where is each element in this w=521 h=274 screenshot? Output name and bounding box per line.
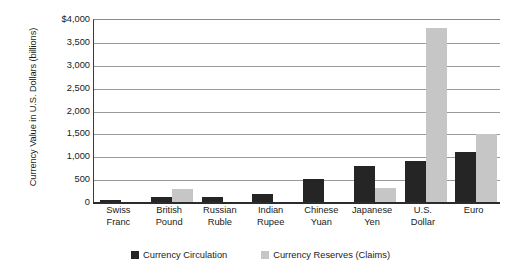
x-axis-line <box>93 202 500 204</box>
y-tick-label: 2,500 <box>67 83 90 93</box>
bar-chart: Currency Value in U.S. Dollars (billions… <box>0 0 521 274</box>
bar-group <box>398 19 449 202</box>
bar <box>375 188 396 202</box>
y-tick-label: 3,500 <box>67 37 90 47</box>
bar <box>151 197 172 202</box>
y-tick-label: 3,000 <box>67 60 90 70</box>
legend-item: Currency Circulation <box>131 250 227 260</box>
bar <box>455 152 476 202</box>
bar-group <box>347 19 398 202</box>
bar <box>303 179 324 202</box>
x-category-label: Euro <box>439 205 509 217</box>
bar-group <box>93 19 144 202</box>
bar <box>354 166 375 202</box>
bars-layer <box>93 19 499 202</box>
bar-group <box>144 19 195 202</box>
bar <box>252 194 273 202</box>
legend-label: Currency Circulation <box>143 250 227 260</box>
chart-legend: Currency CirculationCurrency Reserves (C… <box>0 248 521 262</box>
bar-group <box>448 19 499 202</box>
bar <box>172 189 193 202</box>
legend-item: Currency Reserves (Claims) <box>261 250 390 260</box>
bar <box>202 197 223 202</box>
y-tick-label: 1,000 <box>67 151 90 161</box>
x-category-label-line: Euro <box>439 205 509 217</box>
x-axis-category-labels: SwissFrancBritishPoundRussianRubleIndian… <box>93 205 499 241</box>
bar-group <box>296 19 347 202</box>
x-category-label-line: Dollar <box>388 217 458 229</box>
y-tick-label: $4,000 <box>62 14 90 24</box>
legend-swatch-icon <box>131 251 139 259</box>
legend-label: Currency Reserves (Claims) <box>273 250 390 260</box>
legend-swatch-icon <box>261 251 269 259</box>
bar <box>426 28 447 202</box>
bar <box>476 134 497 202</box>
bar-group <box>195 19 246 202</box>
y-tick-label: 500 <box>74 174 90 184</box>
y-axis-tick-labels: 05001,0001,5002,0002,5003,0003,500$4,000 <box>34 14 90 204</box>
bar <box>100 200 121 202</box>
bar <box>405 161 426 202</box>
bar-group <box>245 19 296 202</box>
y-tick-label: 1,500 <box>67 128 90 138</box>
y-tick-label: 2,000 <box>67 106 90 116</box>
